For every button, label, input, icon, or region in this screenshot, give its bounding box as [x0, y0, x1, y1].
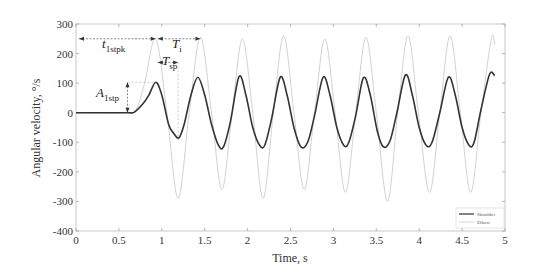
- legend-box: [456, 208, 504, 228]
- series-elbow: [76, 35, 495, 202]
- annotation-Tsp-label: Tsp: [162, 53, 178, 71]
- y-tick-label: 300: [57, 18, 74, 30]
- legend: ShoulderElbow: [456, 208, 504, 228]
- y-tick-label: -300: [53, 195, 74, 207]
- annotation-A1stp-label: A1stp: [95, 85, 119, 103]
- y-tick-label: 0: [68, 107, 74, 119]
- x-tick-label: 0.5: [112, 234, 126, 246]
- x-tick-label: 1.5: [198, 234, 212, 246]
- x-tick-label: 4: [416, 234, 422, 246]
- x-tick-label: 5: [502, 234, 508, 246]
- legend-label-elbow: Elbow: [477, 220, 490, 225]
- data-series: [76, 35, 495, 202]
- y-tick-label: -200: [53, 166, 74, 178]
- x-tick-label: 1: [159, 234, 165, 246]
- x-tick-label: 2.5: [284, 234, 298, 246]
- annotations: t1stpkTiTspA1stp: [79, 36, 200, 142]
- x-tick-label: 2: [245, 234, 251, 246]
- legend-label-shoulder: Shoulder: [477, 212, 495, 217]
- y-tick-label: 200: [57, 48, 74, 60]
- axes-frame: [76, 24, 505, 231]
- series-shoulder: [76, 72, 495, 149]
- x-tick-label: 0: [73, 234, 79, 246]
- y-tick-label: -100: [53, 136, 74, 148]
- plot-area: [76, 24, 505, 231]
- x-tick-label: 3: [331, 234, 337, 246]
- arrowhead: [79, 37, 84, 41]
- y-tick-label: 100: [57, 77, 74, 89]
- x-axis-label: Time, s: [272, 251, 308, 265]
- y-tick-label: -400: [53, 225, 74, 237]
- arrowhead: [158, 37, 163, 41]
- chart: 00.511.522.533.544.553002001000-100-200-…: [0, 0, 535, 280]
- x-tick-label: 4.5: [455, 234, 469, 246]
- x-tick-label: 3.5: [369, 234, 383, 246]
- arrowhead: [125, 82, 129, 87]
- y-axis-label: Angular velocity, °/s: [29, 78, 43, 177]
